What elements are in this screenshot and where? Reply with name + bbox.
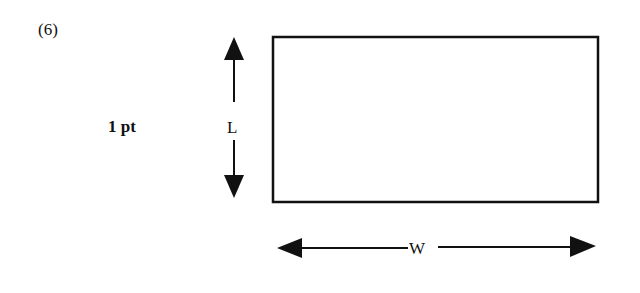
width-arrow (277, 236, 596, 258)
arrow-down-icon (224, 175, 244, 198)
arrow-up-icon (224, 37, 244, 60)
rectangle-diagram: L W (0, 0, 640, 293)
width-label: W (409, 239, 426, 258)
length-label: L (227, 118, 237, 137)
arrow-right-icon (570, 236, 596, 257)
arrow-left-icon (277, 238, 302, 258)
rectangle (273, 37, 598, 202)
